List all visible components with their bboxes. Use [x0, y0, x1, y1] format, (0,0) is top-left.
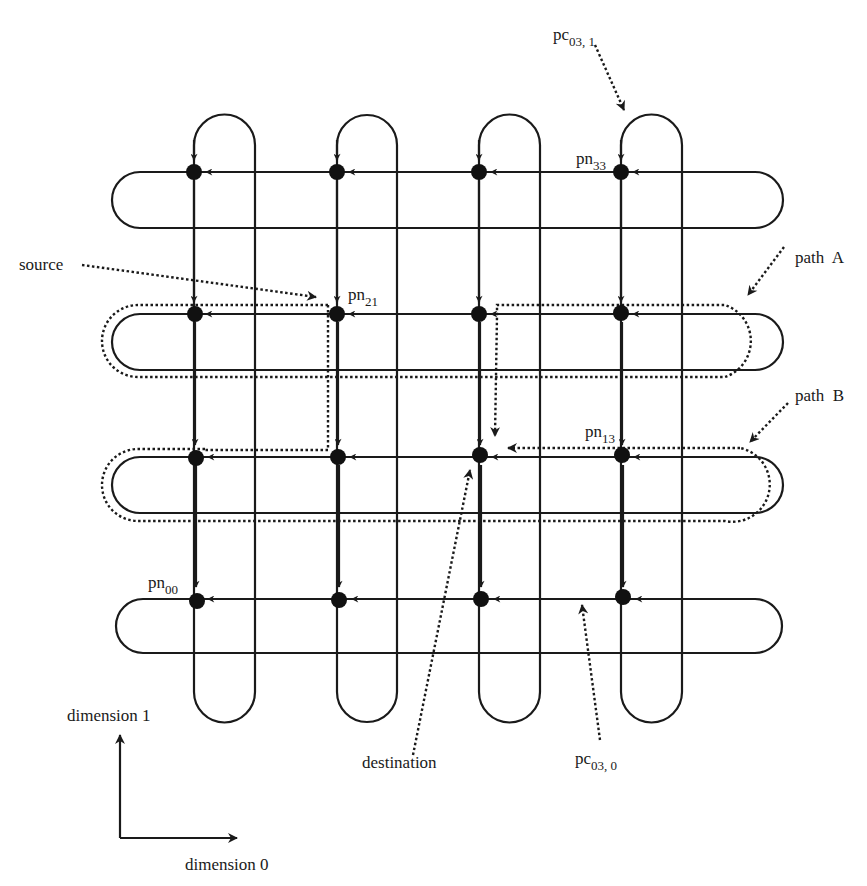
node-pn23 — [613, 305, 629, 321]
label-path-a: path A — [795, 248, 845, 267]
node-pn22 — [471, 306, 487, 322]
node-pn33 — [613, 164, 629, 180]
node-pn21 — [329, 306, 345, 322]
node-pn31 — [329, 164, 345, 180]
node-pn03 — [615, 589, 631, 605]
node-pn32 — [471, 164, 487, 180]
path-a — [102, 305, 751, 450]
node-pn10 — [188, 450, 204, 466]
node-pn13 — [614, 447, 630, 463]
label-pn00: pn00 — [148, 573, 178, 597]
node-pn02 — [473, 591, 489, 607]
node-pn11 — [330, 449, 346, 465]
label-pn13: pn13 — [585, 422, 615, 446]
label-dimension-0: dimension 0 — [185, 855, 269, 874]
node-pn30 — [186, 164, 202, 180]
node-pn20 — [187, 306, 203, 322]
label-pc031: pc03, 1 — [553, 25, 595, 49]
node-pn12 — [472, 447, 488, 463]
node-pn00 — [189, 593, 205, 609]
col-ring-2 — [479, 114, 540, 722]
col-ring-0 — [194, 115, 255, 723]
label-dimension-1: dimension 1 — [67, 706, 151, 725]
node-pn01 — [331, 592, 347, 608]
col-ring-1 — [337, 115, 397, 722]
label-pc030: pc03, 0 — [575, 749, 617, 773]
label-pn21: pn21 — [348, 285, 378, 309]
label-destination: destination — [362, 753, 437, 772]
torus-routing-diagram: pc03, 1 pn33 source pn21 path A path B p… — [0, 0, 867, 886]
col-ring-3 — [621, 114, 682, 722]
label-pn33: pn33 — [576, 149, 606, 173]
label-path-b: path B — [795, 386, 844, 405]
processing-nodes — [186, 164, 631, 609]
dimension-axes — [120, 735, 237, 838]
label-source: source — [19, 255, 63, 274]
